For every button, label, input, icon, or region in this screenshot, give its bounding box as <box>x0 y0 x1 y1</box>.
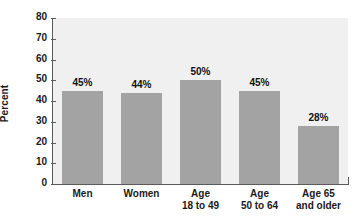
x-axis-category-label-line2: 50 to 64 <box>230 200 289 212</box>
bar[interactable] <box>239 91 280 184</box>
x-axis-category-label-line2: 18 to 49 <box>171 200 230 212</box>
bar-group: 44% <box>121 18 162 184</box>
x-axis-category-label-line1: Age <box>250 188 269 199</box>
bar-chart: 45%44%50%45%28% Percent 0102030405060708… <box>0 0 364 220</box>
x-axis-category-label-line1: Age <box>191 188 210 199</box>
y-axis-tick-label: 50 <box>36 73 47 84</box>
y-axis-tick-label: 20 <box>36 136 47 147</box>
y-axis: 01020304050607080 <box>0 0 56 220</box>
x-axis-category-label: Age18 to 49 <box>171 188 230 212</box>
bar[interactable] <box>121 93 162 184</box>
bar-group: 50% <box>180 18 221 184</box>
x-axis-line <box>52 184 349 185</box>
x-axis-category-label-line1: Women <box>124 188 160 199</box>
bar-value-label: 28% <box>298 112 339 123</box>
bar-group: 45% <box>239 18 280 184</box>
y-axis-line <box>52 18 53 185</box>
bar[interactable] <box>62 91 103 184</box>
bar-value-label: 44% <box>121 79 162 90</box>
y-axis-tick-label: 60 <box>36 53 47 64</box>
x-axis-category-label-line1: Men <box>73 188 93 199</box>
x-axis-category-label: Age 65and older <box>289 188 348 212</box>
x-axis-category-label: Men <box>53 188 112 200</box>
x-axis-category-label-line2: and older <box>289 200 348 212</box>
bar[interactable] <box>180 80 221 184</box>
y-axis-tick-label: 0 <box>41 177 47 188</box>
y-axis-tick-label: 70 <box>36 32 47 43</box>
bar-value-label: 50% <box>180 66 221 77</box>
bar-value-label: 45% <box>239 77 280 88</box>
y-axis-tick-label: 40 <box>36 94 47 105</box>
bar-value-label: 45% <box>62 77 103 88</box>
y-axis-tick-label: 10 <box>36 156 47 167</box>
y-axis-tick-label: 30 <box>36 115 47 126</box>
plot-area: 45%44%50%45%28% <box>53 18 348 184</box>
x-axis-endcap <box>348 177 349 185</box>
x-axis-labels: MenWomenAge18 to 49Age50 to 64Age 65and … <box>53 188 348 220</box>
bar-group: 28% <box>298 18 339 184</box>
x-axis-category-label-line1: Age 65 <box>302 188 335 199</box>
x-axis-category-label: Women <box>112 188 171 200</box>
y-axis-tick-label: 80 <box>36 11 47 22</box>
x-axis-category-label: Age50 to 64 <box>230 188 289 212</box>
bar-group: 45% <box>62 18 103 184</box>
bar[interactable] <box>298 126 339 184</box>
